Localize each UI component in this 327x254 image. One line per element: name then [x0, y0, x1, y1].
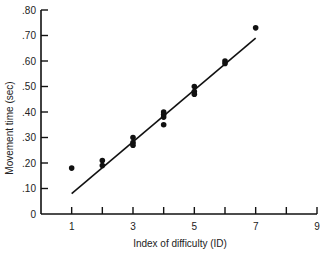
y-tick-label: .40	[22, 107, 36, 118]
data-point	[161, 114, 167, 120]
data-points	[69, 25, 259, 171]
data-point	[130, 135, 136, 141]
data-point	[192, 84, 198, 90]
data-point	[100, 158, 106, 164]
x-axis: 13579	[41, 207, 320, 232]
y-tick-label: .70	[22, 30, 36, 41]
x-tick-label: 3	[130, 221, 136, 232]
x-tick-label: 9	[314, 221, 320, 232]
y-tick-label: 0	[30, 209, 36, 220]
scatter-chart: 0.10.20.30.40.50.60.70.80 13579 Index of…	[0, 0, 327, 254]
y-tick-label: .60	[22, 56, 36, 67]
data-point	[100, 163, 106, 169]
x-tick-label: 1	[69, 221, 75, 232]
data-point	[161, 122, 167, 128]
data-point	[253, 25, 259, 31]
y-tick-label: .50	[22, 81, 36, 92]
y-axis-title: Movement time (sec)	[4, 81, 15, 174]
data-point	[130, 142, 136, 148]
x-tick-label: 5	[192, 221, 198, 232]
y-tick-label: .30	[22, 132, 36, 143]
y-tick-label: .80	[22, 5, 36, 16]
data-point	[192, 91, 198, 97]
y-tick-label: .20	[22, 158, 36, 169]
x-axis-title: Index of difficulty (ID)	[133, 238, 227, 249]
y-tick-label: .10	[22, 183, 36, 194]
data-point	[222, 61, 228, 67]
x-tick-label: 7	[253, 221, 259, 232]
y-axis: 0.10.20.30.40.50.60.70.80	[22, 5, 48, 220]
data-point	[69, 165, 75, 171]
